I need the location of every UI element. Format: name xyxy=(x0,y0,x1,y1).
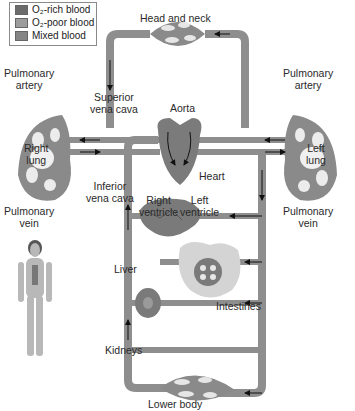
heart xyxy=(158,118,202,185)
intestines xyxy=(179,242,241,297)
swatch-o2-rich xyxy=(15,5,28,15)
label-left-lung: Left lung xyxy=(306,142,326,166)
label-liver: Liver xyxy=(114,263,137,275)
legend-label: Mixed blood xyxy=(32,30,86,41)
legend: O₂-rich blood O₂-poor blood Mixed blood xyxy=(9,2,97,46)
label-pulmonary-vein-left: Pulmonary vein xyxy=(4,205,54,229)
legend-o2-rich: O₂-rich blood xyxy=(15,3,96,16)
legend-mixed: Mixed blood xyxy=(15,29,96,42)
human-figure xyxy=(18,240,52,356)
label-pulmonary-vein-right: Pulmonary vein xyxy=(283,205,333,229)
label-left-ventricle: Left ventricle xyxy=(180,194,219,218)
label-aorta: Aorta xyxy=(170,102,195,114)
label-lower-body: Lower body xyxy=(148,398,202,410)
label-inferior-vena-cava: Inferior vena cava xyxy=(86,180,134,204)
legend-label: O₂-poor blood xyxy=(32,17,94,28)
label-pulmonary-artery-right: Pulmonary artery xyxy=(283,67,333,91)
legend-o2-poor: O₂-poor blood xyxy=(15,16,96,29)
legend-label: O₂-rich blood xyxy=(32,4,90,15)
label-pulmonary-artery-left: Pulmonary artery xyxy=(4,67,54,91)
label-heart: Heart xyxy=(199,170,225,182)
label-kidneys: Kidneys xyxy=(105,344,142,356)
label-intestines: Intestines xyxy=(216,300,261,312)
label-head-neck: Head and neck xyxy=(140,12,211,24)
kidneys xyxy=(135,288,161,318)
label-superior-vena-cava: Superior vena cava xyxy=(90,91,138,115)
label-right-ventricle: Right ventricle xyxy=(139,194,178,218)
head-neck-capillaries xyxy=(150,22,205,46)
swatch-o2-poor xyxy=(15,18,28,28)
swatch-mixed xyxy=(15,31,28,41)
label-right-lung: Right lung xyxy=(24,142,49,166)
